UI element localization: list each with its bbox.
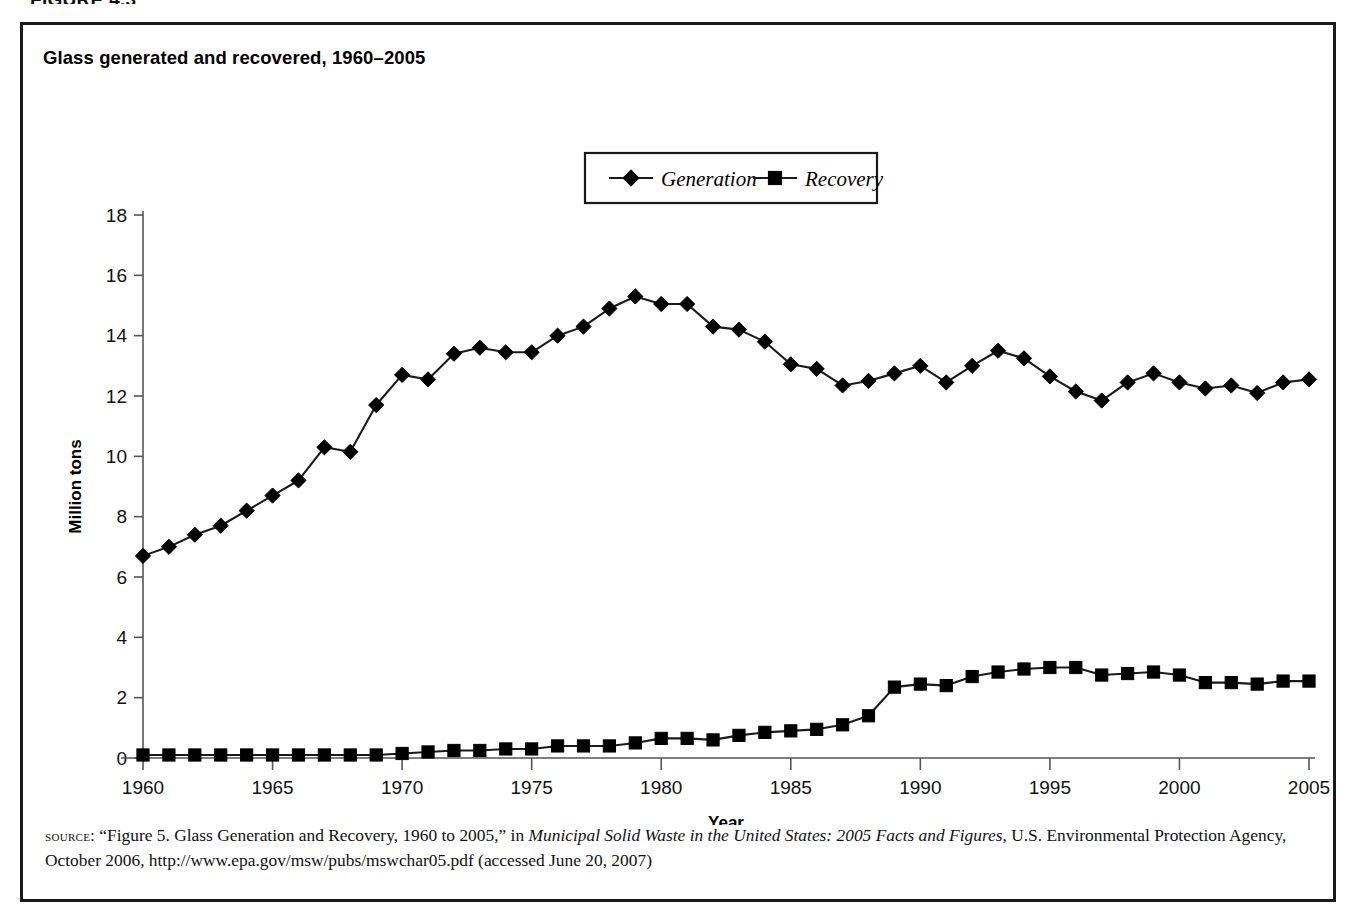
data-point-marker bbox=[265, 488, 280, 503]
data-point-marker bbox=[1094, 393, 1109, 408]
data-point-marker bbox=[135, 548, 150, 563]
data-point-marker bbox=[1251, 678, 1263, 690]
data-point-marker bbox=[1018, 663, 1030, 675]
data-point-marker bbox=[939, 375, 954, 390]
source-text-part1: “Figure 5. Glass Generation and Recovery… bbox=[95, 825, 529, 845]
data-point-marker bbox=[681, 732, 693, 744]
x-axis-tick-label: 2005 bbox=[1288, 777, 1330, 798]
data-point-marker bbox=[835, 378, 850, 393]
y-axis-tick-label: 16 bbox=[106, 265, 127, 286]
data-point-marker bbox=[768, 171, 781, 184]
data-point-marker bbox=[524, 345, 539, 360]
data-point-marker bbox=[370, 749, 382, 761]
figure-container: Glass generated and recovered, 1960–2005… bbox=[20, 22, 1336, 902]
data-point-marker bbox=[1147, 666, 1159, 678]
data-point-marker bbox=[189, 749, 201, 761]
y-axis-tick-label: 2 bbox=[116, 687, 127, 708]
data-point-marker bbox=[602, 301, 617, 316]
data-point-marker bbox=[940, 680, 952, 692]
data-point-marker bbox=[448, 744, 460, 756]
data-point-marker bbox=[603, 740, 615, 752]
data-point-marker bbox=[526, 743, 538, 755]
data-point-marker bbox=[1016, 351, 1031, 366]
data-point-marker bbox=[422, 746, 434, 758]
chart-legend: GenerationRecovery bbox=[585, 153, 884, 203]
data-point-marker bbox=[1250, 385, 1265, 400]
chart-plot-area: 024681012141618Million tons1960196519701… bbox=[23, 25, 1339, 825]
data-point-marker bbox=[1224, 378, 1239, 393]
data-point-marker bbox=[1225, 676, 1237, 688]
data-point-marker bbox=[1199, 676, 1211, 688]
data-point-marker bbox=[1122, 667, 1134, 679]
data-point-marker bbox=[1173, 669, 1185, 681]
data-point-marker bbox=[163, 749, 175, 761]
y-axis-tick-label: 18 bbox=[106, 205, 127, 226]
data-point-marker bbox=[965, 358, 980, 373]
data-point-marker bbox=[187, 527, 202, 542]
data-point-marker bbox=[577, 740, 589, 752]
source-note: source: “Figure 5. Glass Generation and … bbox=[45, 823, 1319, 872]
data-point-marker bbox=[707, 734, 719, 746]
y-axis-tick-label: 10 bbox=[106, 446, 127, 467]
x-axis-tick-label: 1985 bbox=[770, 777, 812, 798]
legend-label: Generation bbox=[661, 167, 757, 191]
series-recovery bbox=[137, 661, 1315, 761]
data-point-marker bbox=[990, 343, 1005, 358]
series-line bbox=[143, 296, 1309, 555]
data-point-marker bbox=[137, 749, 149, 761]
data-point-marker bbox=[343, 444, 358, 459]
data-point-marker bbox=[576, 319, 591, 334]
data-point-marker bbox=[992, 666, 1004, 678]
source-publication-title: Municipal Solid Waste in the United Stat… bbox=[529, 825, 1003, 845]
data-point-marker bbox=[472, 340, 487, 355]
y-axis-tick-label: 6 bbox=[116, 567, 127, 588]
y-axis-tick-label: 14 bbox=[106, 325, 128, 346]
data-point-marker bbox=[887, 366, 902, 381]
line-chart: 024681012141618Million tons1960196519701… bbox=[23, 25, 1339, 825]
data-point-marker bbox=[1275, 375, 1290, 390]
figure-number: FIGURE 4.3 bbox=[30, 0, 136, 4]
data-point-marker bbox=[966, 670, 978, 682]
data-point-marker bbox=[1198, 381, 1213, 396]
x-axis-tick-label: 1990 bbox=[899, 777, 941, 798]
x-axis-tick-label: 1960 bbox=[122, 777, 164, 798]
source-label: source: bbox=[45, 827, 95, 844]
data-point-marker bbox=[1096, 669, 1108, 681]
data-point-marker bbox=[888, 681, 900, 693]
data-point-marker bbox=[498, 345, 513, 360]
data-point-marker bbox=[241, 749, 253, 761]
x-axis-tick-label: 2000 bbox=[1158, 777, 1200, 798]
data-point-marker bbox=[862, 710, 874, 722]
x-axis-tick-label: 1970 bbox=[381, 777, 423, 798]
data-point-marker bbox=[1120, 375, 1135, 390]
x-axis-tick-label: 1995 bbox=[1029, 777, 1071, 798]
data-point-marker bbox=[266, 749, 278, 761]
data-point-marker bbox=[628, 289, 643, 304]
data-point-marker bbox=[809, 361, 824, 376]
series-line bbox=[143, 668, 1309, 755]
y-axis-tick-label: 4 bbox=[116, 627, 127, 648]
data-point-marker bbox=[811, 723, 823, 735]
data-point-marker bbox=[759, 726, 771, 738]
data-point-marker bbox=[785, 725, 797, 737]
data-point-marker bbox=[344, 749, 356, 761]
data-point-marker bbox=[1172, 375, 1187, 390]
data-point-marker bbox=[1044, 661, 1056, 673]
data-point-marker bbox=[861, 373, 876, 388]
data-point-marker bbox=[161, 539, 176, 554]
data-point-marker bbox=[500, 743, 512, 755]
data-point-marker bbox=[1303, 675, 1315, 687]
data-point-marker bbox=[213, 518, 228, 533]
data-point-marker bbox=[551, 740, 563, 752]
data-point-marker bbox=[1146, 366, 1161, 381]
data-point-marker bbox=[837, 719, 849, 731]
x-axis-tick-label: 1965 bbox=[251, 777, 293, 798]
data-point-marker bbox=[318, 749, 330, 761]
data-point-marker bbox=[239, 503, 254, 518]
y-axis-title: Million tons bbox=[66, 439, 85, 533]
x-axis-tick-label: 1975 bbox=[511, 777, 553, 798]
data-point-marker bbox=[655, 732, 667, 744]
data-point-marker bbox=[1042, 369, 1057, 384]
data-point-marker bbox=[731, 322, 746, 337]
data-point-marker bbox=[292, 749, 304, 761]
